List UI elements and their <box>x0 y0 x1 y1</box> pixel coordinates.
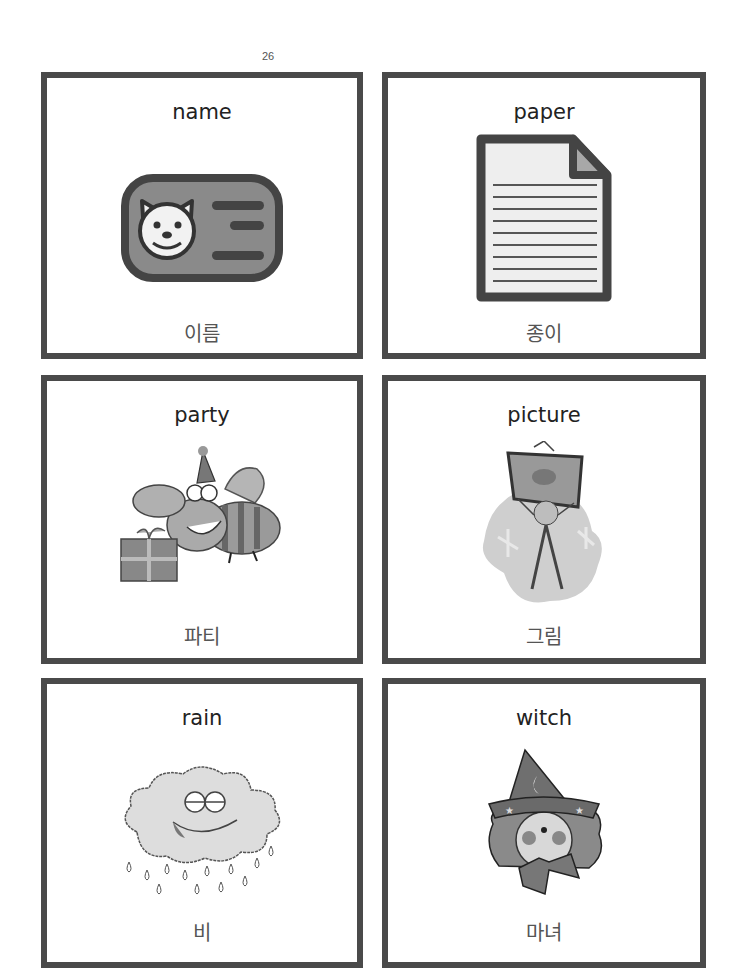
id-card-dog-icon <box>120 173 284 283</box>
page-number: 26 <box>258 50 278 62</box>
witch-face-icon: ★ ★ <box>479 746 609 906</box>
rain-cloud-icon <box>117 762 287 897</box>
english-word: name <box>47 100 357 124</box>
english-word: paper <box>388 100 700 124</box>
person-holding-picture-icon <box>474 441 614 611</box>
flashcard-rain: rain 비 <box>41 678 363 968</box>
flashcard-paper: paper 종이 <box>382 72 706 359</box>
korean-word: 파티 <box>47 621 357 650</box>
flashcard-witch: witch ★ ★ 마녀 <box>382 678 706 968</box>
english-word: party <box>47 403 357 427</box>
flashcard-picture: picture 그림 <box>382 375 706 664</box>
korean-word: 마녀 <box>388 917 700 946</box>
english-word: rain <box>47 706 357 730</box>
flashcard-name: name 이름 <box>41 72 363 359</box>
korean-word: 종이 <box>388 318 700 347</box>
flashcard-party: party 파티 <box>41 375 363 664</box>
korean-word: 이름 <box>47 318 357 347</box>
korean-word: 비 <box>47 917 357 946</box>
english-word: picture <box>388 403 700 427</box>
svg-text:★: ★ <box>505 805 514 816</box>
paper-document-icon <box>475 133 613 303</box>
svg-text:★: ★ <box>575 805 584 816</box>
party-bee-gift-icon <box>117 443 287 588</box>
korean-word: 그림 <box>388 621 700 650</box>
english-word: witch <box>388 706 700 730</box>
